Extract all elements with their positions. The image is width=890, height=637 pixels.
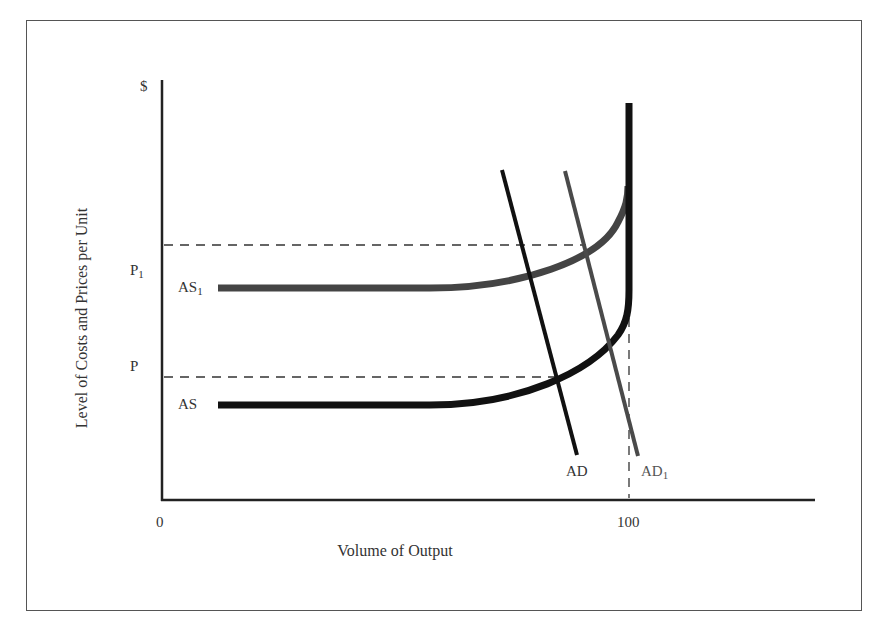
y-tick-p1: P1 xyxy=(130,263,144,280)
p1-label-sub: 1 xyxy=(138,268,144,280)
y-tick-p: P xyxy=(130,359,138,374)
x-tick-100: 100 xyxy=(617,515,640,530)
x-axis-title: Volume of Output xyxy=(337,542,452,560)
ad1-label-sub: 1 xyxy=(663,469,669,481)
x-tick-0: 0 xyxy=(156,515,164,530)
ad1-label-main: AD xyxy=(641,463,663,479)
as1-curve xyxy=(218,186,628,288)
ad1-label: AD1 xyxy=(641,464,668,481)
as-curve xyxy=(218,103,629,405)
as1-label: AS1 xyxy=(178,280,203,297)
ad-curve xyxy=(502,170,577,455)
as1-label-sub: 1 xyxy=(197,285,203,297)
y-axis-dollar-label: $ xyxy=(140,79,148,94)
ad-label: AD xyxy=(566,464,588,479)
as1-label-main: AS xyxy=(178,279,197,295)
as-label: AS xyxy=(178,397,197,412)
y-axis-title: Level of Costs and Prices per Unit xyxy=(73,208,91,428)
